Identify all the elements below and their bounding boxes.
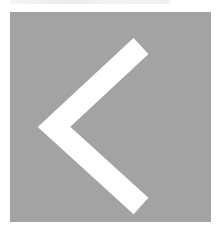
- back-button[interactable]: [10, 12, 211, 222]
- chevron-left-icon: [10, 12, 211, 222]
- cropped-text-strip: [10, 0, 170, 4]
